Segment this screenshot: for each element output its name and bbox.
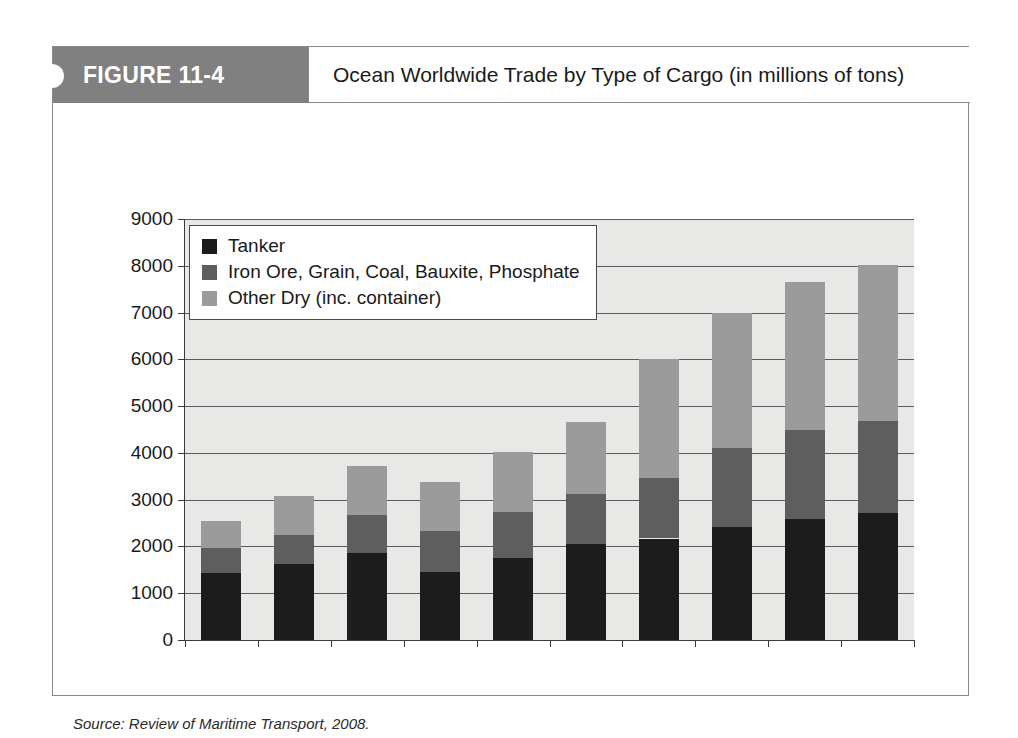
figure-title: Ocean Worldwide Trade by Type of Cargo (… (333, 63, 904, 87)
legend-item: Tanker (202, 233, 580, 259)
bar-segment (274, 564, 314, 640)
figure-number-band: FIGURE 11-4 (53, 47, 308, 103)
bar-segment (420, 531, 460, 572)
bar-segment (858, 513, 898, 640)
bar-segment (712, 527, 752, 640)
notch-circle-decoration (40, 64, 64, 88)
y-axis-tick-label: 0 (162, 629, 173, 651)
bar-segment (493, 558, 533, 640)
x-axis-tick (331, 640, 332, 647)
figure-frame: FIGURE 11-4 Ocean Worldwide Trade by Typ… (52, 46, 969, 696)
x-axis-tick (404, 640, 405, 647)
legend-item: Other Dry (inc. container) (202, 285, 580, 311)
y-axis-tick (178, 593, 185, 594)
legend-label: Other Dry (inc. container) (228, 287, 441, 309)
bar-segment (347, 515, 387, 552)
bar-segment (420, 572, 460, 640)
y-axis-tick (178, 500, 185, 501)
bar-segment (566, 422, 606, 493)
y-axis-tick-label: 1000 (131, 582, 173, 604)
y-axis-tick (178, 406, 185, 407)
bar-stack (858, 265, 898, 640)
y-axis-tick-label: 8000 (131, 255, 173, 277)
x-axis-tick (768, 640, 769, 647)
bar-segment (347, 553, 387, 640)
bar-segment (274, 535, 314, 564)
legend-swatch-icon (202, 291, 217, 306)
bar-segment (785, 282, 825, 430)
bar-segment (639, 359, 679, 478)
bar-stack (493, 452, 533, 640)
y-axis-tick (178, 313, 185, 314)
bar-segment (201, 521, 241, 548)
bar-segment (420, 482, 460, 531)
legend-item: Iron Ore, Grain, Coal, Bauxite, Phosphat… (202, 259, 580, 285)
bar-segment (347, 466, 387, 515)
figure-number-label: FIGURE 11-4 (83, 62, 224, 89)
bar-segment (493, 512, 533, 558)
bar-stack (201, 521, 241, 640)
x-axis-tick (914, 640, 915, 647)
bar-stack (347, 466, 387, 640)
y-axis-tick (178, 453, 185, 454)
y-axis-tick-label: 6000 (131, 348, 173, 370)
legend-label: Iron Ore, Grain, Coal, Bauxite, Phosphat… (228, 261, 580, 283)
x-axis-tick (477, 640, 478, 647)
bar-segment (785, 430, 825, 518)
figure-title-box: Ocean Worldwide Trade by Type of Cargo (… (308, 47, 970, 103)
bar-segment (858, 421, 898, 513)
bar-segment (274, 496, 314, 535)
figure-header: FIGURE 11-4 Ocean Worldwide Trade by Typ… (53, 47, 970, 103)
y-axis-tick-label: 3000 (131, 489, 173, 511)
bar-segment (566, 494, 606, 545)
bar-stack (712, 313, 752, 640)
x-axis-tick (550, 640, 551, 647)
y-axis-tick (178, 359, 185, 360)
legend-swatch-icon (202, 239, 217, 254)
source-note: Source: Review of Maritime Transport, 20… (73, 715, 370, 732)
y-axis-tick-label: 2000 (131, 535, 173, 557)
bar-stack (274, 496, 314, 640)
legend-label: Tanker (228, 235, 285, 257)
bar-stack (785, 282, 825, 640)
x-axis-tick (841, 640, 842, 647)
chart-area: 0100020003000400050006000700080009000 19… (53, 103, 968, 695)
bar-stack (639, 359, 679, 640)
y-axis-tick (178, 640, 185, 641)
bar-segment (566, 544, 606, 640)
y-axis-tick-label: 4000 (131, 442, 173, 464)
bar-segment (712, 313, 752, 449)
y-axis-tick-label: 7000 (131, 302, 173, 324)
bar-segment (639, 539, 679, 641)
bar-segment (639, 478, 679, 538)
y-axis-tick-label: 9000 (131, 208, 173, 230)
y-axis-tick (178, 266, 185, 267)
y-axis-tick-label: 5000 (131, 395, 173, 417)
y-axis-tick (178, 219, 185, 220)
bar-segment (712, 448, 752, 527)
x-axis-tick (258, 640, 259, 647)
x-axis-tick (695, 640, 696, 647)
y-axis-tick (178, 546, 185, 547)
bar-stack (566, 422, 606, 640)
bar-segment (785, 519, 825, 640)
legend-swatch-icon (202, 265, 217, 280)
bar-segment (201, 573, 241, 640)
x-axis-tick (185, 640, 186, 647)
bar-segment (201, 548, 241, 573)
chart-legend: TankerIron Ore, Grain, Coal, Bauxite, Ph… (189, 225, 597, 320)
x-axis-tick (622, 640, 623, 647)
bar-stack (420, 482, 460, 640)
bar-segment (493, 452, 533, 512)
bar-segment (858, 265, 898, 421)
